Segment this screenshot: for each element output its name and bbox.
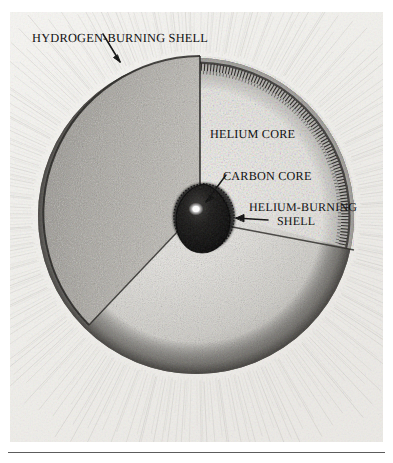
label-hydrogen-burning-shell: HYDROGEN-BURNING SHELL: [32, 32, 208, 45]
label-helium-burning-shell-line2: SHELL: [277, 215, 357, 228]
label-helium-core: HELIUM CORE: [210, 128, 295, 141]
label-carbon-core: CARBON CORE: [223, 170, 312, 183]
illustration-plate: HYDROGEN-BURNING SHELL HELIUM CORE CARBO…: [10, 12, 383, 442]
label-helium-burning-shell-line1: HELIUM-BURNING: [249, 200, 357, 214]
figure-page: HYDROGEN-BURNING SHELL HELIUM CORE CARBO…: [0, 0, 393, 463]
label-helium-burning-shell: HELIUM-BURNING SHELL: [249, 201, 357, 227]
horizontal-rule: [8, 452, 385, 453]
